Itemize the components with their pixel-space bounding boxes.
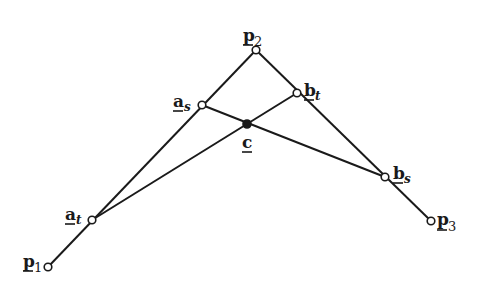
segments <box>48 50 431 267</box>
svg-text:a: a <box>173 91 184 111</box>
point-b-t <box>293 89 301 97</box>
segment-as-bs <box>202 105 385 177</box>
label-p1: p 1 <box>23 251 42 275</box>
svg-text:t: t <box>76 213 82 227</box>
point-c <box>243 120 251 128</box>
label-a-s: a s <box>173 91 191 114</box>
point-a-t <box>88 216 96 224</box>
svg-text:t: t <box>315 89 321 103</box>
label-b-s: b s <box>393 163 411 186</box>
svg-text:s: s <box>184 100 191 114</box>
label-a-t: a t <box>65 204 82 227</box>
svg-text:2: 2 <box>254 34 262 49</box>
point-b-s <box>381 173 389 181</box>
svg-text:a: a <box>65 204 76 224</box>
points <box>44 46 435 271</box>
svg-text:1: 1 <box>34 260 42 275</box>
point-p1 <box>44 263 52 271</box>
segment-p1-p2 <box>48 50 256 267</box>
label-b-t: b t <box>304 80 321 103</box>
svg-text:s: s <box>404 172 411 186</box>
svg-text:c: c <box>242 132 252 152</box>
bezier-construction-diagram: p 2 a s b t c b s p 3 a t p 1 <box>0 0 485 282</box>
label-p3: p 3 <box>437 209 456 234</box>
point-p3 <box>427 217 435 225</box>
segment-at-bt <box>92 93 297 220</box>
label-p2: p 2 <box>243 25 262 49</box>
label-c: c <box>242 132 252 152</box>
svg-text:3: 3 <box>448 219 456 234</box>
point-a-s <box>198 101 206 109</box>
